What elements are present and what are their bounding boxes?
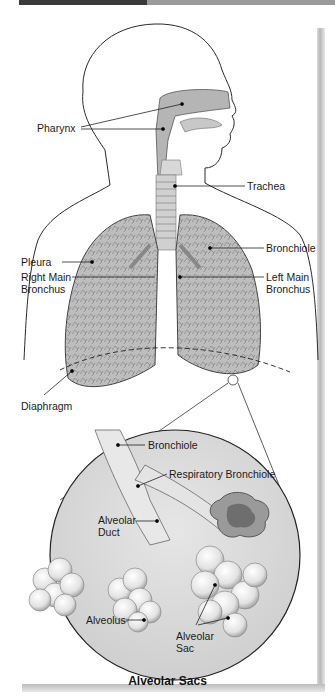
label-trachea: Trachea <box>247 180 285 192</box>
label-left-main-bronchus-line2: Bronchus <box>266 283 310 295</box>
label-alveolar-duct-line2: Duct <box>98 526 120 538</box>
label-alveolar-sac-line2: Sac <box>176 642 194 654</box>
label-pleura: Pleura <box>21 256 51 268</box>
magnify-marker <box>228 375 238 385</box>
label-right-main-bronchus-line1: Right Main <box>21 271 71 283</box>
label-diaphragm: Diaphragm <box>21 400 72 412</box>
label-left-main-bronchus-line1: Left Main <box>266 271 309 283</box>
figure-caption: Alveolar Sacs <box>0 674 335 688</box>
respiratory-system-illustration <box>0 0 335 698</box>
trachea <box>156 175 176 250</box>
label-bronchiole: Bronchiole <box>266 242 316 254</box>
label-alveolar-duct-line1: Alveolar <box>98 514 136 526</box>
label-alveolar-sac-line1: Alveolar <box>176 630 214 642</box>
label-right-main-bronchus-line2: Bronchus <box>21 283 65 295</box>
label-pharynx: Pharynx <box>37 122 76 134</box>
left-lung <box>176 215 260 374</box>
right-lung <box>65 215 158 387</box>
label-respiratory-bronchiole: Respiratory Bronchiole <box>169 468 275 480</box>
label-alveolus: Alveolus <box>86 614 126 626</box>
airway-upper <box>156 90 230 180</box>
label-inset-bronchiole: Bronchiole <box>148 439 198 451</box>
